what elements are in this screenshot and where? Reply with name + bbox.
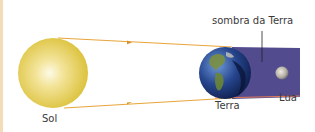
earth-label: Terra — [215, 100, 240, 111]
sun-label: Sol — [42, 113, 57, 124]
shadow-label: sombra da Terra — [212, 15, 293, 26]
moon-label: Lua — [279, 92, 297, 103]
arrow-icon — [127, 41, 132, 45]
moon-icon — [276, 67, 289, 80]
earth-icon — [199, 47, 251, 99]
sun-icon — [18, 38, 88, 108]
